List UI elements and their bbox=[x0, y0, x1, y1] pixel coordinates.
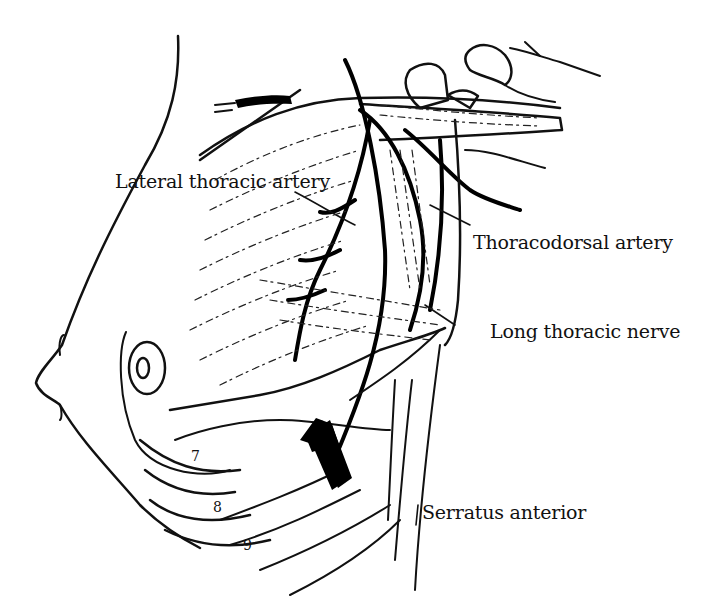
long-thoracic-nerve-vessel bbox=[430, 140, 442, 310]
axillary-vessel-1 bbox=[330, 60, 385, 470]
anatomical-figure: Lateral thoracic artery Thoracodorsal ar… bbox=[0, 0, 717, 616]
torso-outline bbox=[36, 36, 200, 548]
rib-number-8: 8 bbox=[213, 500, 222, 514]
leader-long-thoracic bbox=[425, 305, 455, 325]
acromion bbox=[466, 45, 512, 85]
label-thoracodorsal-artery: Thoracodorsal artery bbox=[473, 233, 673, 252]
label-serratus-anterior: Serratus anterior bbox=[422, 503, 586, 522]
rib-number-7: 7 bbox=[191, 449, 200, 463]
lateral-thoracic-artery-vessel bbox=[295, 120, 370, 360]
serratus-ribs bbox=[140, 345, 440, 595]
vessel-stump-top bbox=[235, 95, 292, 108]
clavicle bbox=[360, 104, 562, 140]
coracoid bbox=[406, 64, 448, 108]
areola bbox=[129, 342, 165, 394]
rib-number-9: 9 bbox=[243, 538, 252, 552]
thoracodorsal-artery-vessel bbox=[405, 130, 520, 210]
leader-serratus bbox=[416, 505, 418, 525]
chest-wall-drawing bbox=[0, 0, 717, 616]
label-long-thoracic-nerve: Long thoracic nerve bbox=[490, 322, 680, 341]
nipple bbox=[137, 358, 149, 378]
label-lateral-thoracic-artery: Lateral thoracic artery bbox=[115, 172, 330, 191]
leader-thoracodorsal bbox=[430, 205, 470, 225]
